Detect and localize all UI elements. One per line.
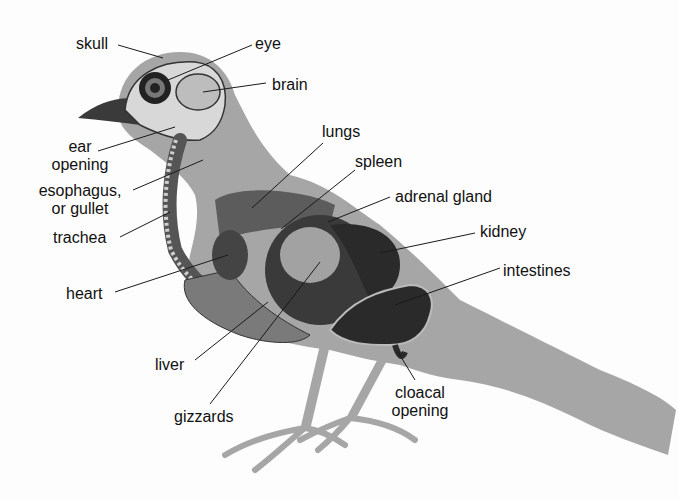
- label-ear-opening: ear opening: [40, 138, 120, 174]
- bird-leg-left: [300, 345, 330, 430]
- label-eye: eye: [255, 35, 281, 53]
- label-esophagus-line2: or gullet: [30, 200, 130, 218]
- label-esophagus-line1: esophagus,: [30, 182, 130, 200]
- label-adrenal-gland: adrenal gland: [395, 188, 492, 206]
- bird-leg-right: [345, 355, 390, 420]
- leader-skull: [118, 45, 163, 58]
- label-liver: liver: [155, 356, 184, 374]
- label-intestines: intestines: [503, 262, 571, 280]
- label-gizzards: gizzards: [174, 408, 234, 426]
- bird-anatomy-diagram: skull eye brain ear opening esophagus, o…: [0, 0, 678, 499]
- label-kidney: kidney: [480, 223, 526, 241]
- label-ear-opening-line1: ear: [40, 138, 120, 156]
- label-heart: heart: [66, 285, 102, 303]
- label-cloacal-opening: cloacal opening: [385, 384, 455, 420]
- heart-shape: [212, 230, 248, 280]
- label-spleen: spleen: [355, 153, 402, 171]
- bird-foot-left: [225, 428, 345, 470]
- label-trachea: trachea: [53, 229, 106, 247]
- label-cloacal-opening-line1: cloacal: [385, 384, 455, 402]
- label-skull: skull: [76, 35, 108, 53]
- bird-foot-right: [300, 418, 415, 450]
- label-esophagus: esophagus, or gullet: [30, 182, 130, 218]
- bird-illustration: [0, 0, 678, 499]
- label-brain: brain: [272, 76, 308, 94]
- label-ear-opening-line2: opening: [40, 156, 120, 174]
- brain-shape: [176, 74, 220, 110]
- label-cloacal-opening-line2: opening: [385, 402, 455, 420]
- label-lungs: lungs: [322, 123, 360, 141]
